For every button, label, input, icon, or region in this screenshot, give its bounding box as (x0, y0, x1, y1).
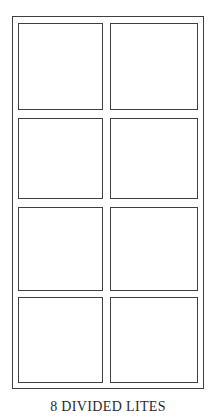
divided-lites-figure: 8 DIVIDED LITES (0, 0, 216, 418)
pane-row4-col1 (18, 297, 103, 383)
pane-row1-col1 (18, 23, 103, 110)
pane-row2-col2 (110, 118, 198, 199)
pane-row2-col1 (18, 118, 103, 199)
figure-caption: 8 DIVIDED LITES (0, 400, 216, 414)
pane-row1-col2 (110, 23, 198, 110)
pane-row3-col2 (110, 207, 198, 291)
pane-row4-col2 (110, 297, 198, 383)
pane-row3-col1 (18, 207, 103, 291)
